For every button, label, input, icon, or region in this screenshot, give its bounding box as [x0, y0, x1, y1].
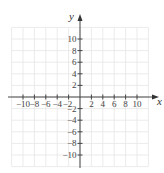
x-tick-label: −4 [52, 99, 62, 109]
y-tick-label: 4 [72, 69, 77, 79]
y-tick-label: 6 [72, 57, 77, 67]
y-tick-label: 8 [72, 46, 77, 56]
x-tick-label: −6 [41, 99, 51, 109]
y-axis-arrow-icon [78, 14, 83, 21]
x-tick-label: −8 [30, 99, 40, 109]
x-tick-label: −10 [16, 99, 31, 109]
coordinate-plane: −10−8−6−4−2246810108642−2−4−6−8−10 x y [0, 0, 164, 173]
y-tick-label: −6 [67, 127, 77, 137]
axes [8, 14, 159, 168]
y-tick-label: 2 [72, 80, 77, 90]
x-tick-label: 2 [89, 99, 94, 109]
y-tick-label: −2 [67, 104, 77, 114]
x-axis-label: x [156, 95, 162, 107]
y-tick-label: −8 [67, 138, 77, 148]
y-tick-label: 10 [68, 34, 78, 44]
x-tick-label: 6 [112, 99, 117, 109]
x-tick-label: 4 [101, 99, 106, 109]
x-tick-label: 8 [123, 99, 128, 109]
y-axis-label: y [68, 10, 74, 22]
y-tick-label: −10 [62, 150, 77, 160]
y-tick-label: −4 [67, 115, 77, 125]
x-tick-label: 10 [133, 99, 143, 109]
